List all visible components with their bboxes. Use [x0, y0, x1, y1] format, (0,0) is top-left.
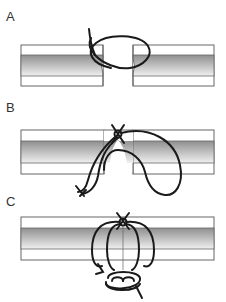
panel-c — [21, 213, 214, 298]
panel-b — [21, 125, 214, 196]
tissue-right-b — [133, 130, 214, 174]
suture-diagram — [0, 0, 226, 302]
tissue-right-a — [133, 45, 214, 86]
panel-a — [21, 29, 214, 86]
